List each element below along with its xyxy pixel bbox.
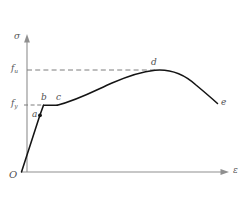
y-axis-arrowhead bbox=[24, 34, 30, 43]
point-marker-a bbox=[38, 113, 42, 117]
curve-segment-hardening-necking bbox=[57, 70, 217, 105]
plot-canvas bbox=[0, 0, 247, 206]
x-axis-label: ε bbox=[233, 166, 238, 175]
stress-strain-diagram: σ ε O fu fy a b c d e bbox=[0, 0, 247, 206]
x-axis-arrowhead bbox=[221, 169, 230, 175]
point-label-c: c bbox=[56, 93, 61, 102]
tick-label-fu-sub: u bbox=[14, 67, 18, 74]
point-label-d: d bbox=[151, 58, 157, 67]
point-label-a: a bbox=[32, 110, 37, 119]
y-axis-label: σ bbox=[14, 32, 20, 41]
tick-label-fy: fy bbox=[11, 99, 18, 108]
point-label-b: b bbox=[41, 93, 47, 102]
point-label-e: e bbox=[221, 98, 226, 107]
origin-label: O bbox=[9, 170, 17, 180]
tick-label-fu: fu bbox=[11, 64, 18, 73]
tick-label-fy-sub: y bbox=[14, 102, 17, 109]
